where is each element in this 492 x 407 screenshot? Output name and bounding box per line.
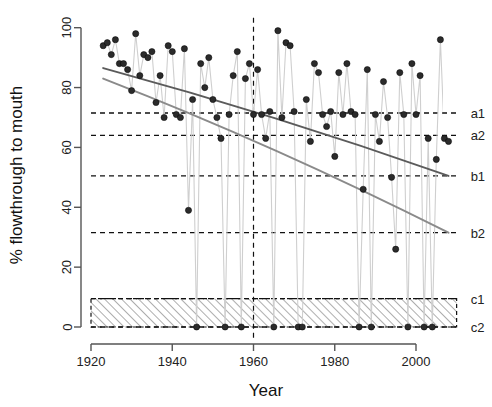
data-point <box>315 70 321 76</box>
data-point <box>433 156 439 162</box>
data-point <box>190 96 196 102</box>
data-point <box>255 67 261 73</box>
data-point <box>429 324 435 330</box>
data-point <box>153 99 159 105</box>
data-point <box>380 79 386 85</box>
data-point <box>230 73 236 79</box>
data-point <box>181 46 187 52</box>
data-point <box>137 73 143 79</box>
data-point <box>246 61 252 67</box>
data-point <box>336 70 342 76</box>
data-point <box>218 135 224 141</box>
data-point <box>401 111 407 117</box>
reference-label-c1: c1 <box>471 292 485 307</box>
x-tick-label: 1920 <box>77 354 106 369</box>
data-point <box>409 61 415 67</box>
data-point <box>307 138 313 144</box>
x-tick-label: 2000 <box>402 354 431 369</box>
data-point <box>397 70 403 76</box>
data-point <box>413 111 419 117</box>
data-point <box>299 324 305 330</box>
data-point <box>226 111 232 117</box>
y-tick-label: 20 <box>60 260 75 274</box>
data-point <box>324 123 330 129</box>
data-point <box>421 324 427 330</box>
data-point <box>250 111 256 117</box>
data-point <box>210 96 216 102</box>
data-point <box>385 114 391 120</box>
data-point <box>161 114 167 120</box>
data-point <box>145 55 151 61</box>
y-tick-label: 60 <box>60 140 75 154</box>
data-point <box>259 111 265 117</box>
data-point <box>405 324 411 330</box>
data-point <box>425 135 431 141</box>
data-point <box>125 67 131 73</box>
reference-label-b2: b2 <box>471 226 485 241</box>
data-point <box>194 324 200 330</box>
data-point <box>291 108 297 114</box>
reference-label-b1: b1 <box>471 169 485 184</box>
data-point <box>332 153 338 159</box>
data-point <box>120 61 126 67</box>
data-point <box>222 324 228 330</box>
y-tick-label: 80 <box>60 80 75 94</box>
data-point <box>287 43 293 49</box>
data-point <box>202 85 208 91</box>
data-point <box>177 114 183 120</box>
data-point <box>340 111 346 117</box>
data-point <box>206 55 212 61</box>
data-point <box>320 111 326 117</box>
data-point <box>360 186 366 192</box>
data-point <box>356 324 362 330</box>
x-tick-label: 1960 <box>239 354 268 369</box>
data-point <box>271 324 277 330</box>
x-axis-title: Year <box>249 381 284 400</box>
data-point <box>303 96 309 102</box>
data-point <box>263 135 269 141</box>
data-point <box>328 108 334 114</box>
data-point <box>279 114 285 120</box>
data-point <box>437 37 443 43</box>
data-point <box>108 52 114 58</box>
y-axis-title: % flowthrough to mouth <box>7 86 26 265</box>
data-point <box>311 61 317 67</box>
data-point <box>198 61 204 67</box>
data-point <box>112 37 118 43</box>
data-point <box>185 207 191 213</box>
data-point <box>214 114 220 120</box>
y-tick-label: 40 <box>60 200 75 214</box>
data-point <box>389 174 395 180</box>
data-point <box>157 73 163 79</box>
data-point <box>169 49 175 55</box>
data-point <box>133 31 139 37</box>
data-point <box>445 138 451 144</box>
data-point <box>372 111 378 117</box>
data-point <box>234 49 240 55</box>
data-point <box>242 76 248 82</box>
x-tick-label: 1980 <box>320 354 349 369</box>
flowthrough-scatter-chart: 020406080100 19201940196019802000 Year %… <box>0 0 492 407</box>
x-tick-label: 1940 <box>158 354 187 369</box>
data-point <box>417 73 423 79</box>
data-point <box>344 61 350 67</box>
data-point <box>149 49 155 55</box>
data-point <box>129 88 135 94</box>
data-point <box>376 138 382 144</box>
y-tick-label: 100 <box>60 17 75 39</box>
data-point <box>364 67 370 73</box>
data-point <box>104 40 110 46</box>
chart-figure: 020406080100 19201940196019802000 Year %… <box>0 0 492 407</box>
data-point <box>368 324 374 330</box>
data-point <box>393 246 399 252</box>
data-point <box>275 28 281 34</box>
reference-label-a2: a2 <box>471 128 485 143</box>
data-point <box>165 43 171 49</box>
data-point <box>267 108 273 114</box>
data-point <box>352 111 358 117</box>
reference-label-c2: c2 <box>471 320 485 335</box>
reference-label-a1: a1 <box>471 106 485 121</box>
y-tick-label: 0 <box>60 323 75 330</box>
data-point <box>238 324 244 330</box>
